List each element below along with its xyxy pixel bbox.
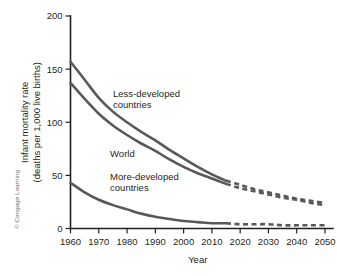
x-tick-label: 2040 bbox=[286, 236, 307, 247]
y-axis-title-line1: Infant mortality rate bbox=[19, 82, 30, 163]
x-axis-title: Year bbox=[188, 254, 207, 265]
chart-series bbox=[71, 62, 326, 226]
y-tick-label: 0 bbox=[57, 223, 62, 234]
copyright-credit: © Cengage Learning bbox=[13, 164, 20, 236]
chart-annotations: Less-developedcountriesWorldMore-develop… bbox=[110, 88, 180, 193]
x-tick-label: 2050 bbox=[314, 236, 335, 247]
x-tick-label: 2000 bbox=[173, 236, 194, 247]
infant-mortality-line-chart: 0501001502001960197019801990200020102020… bbox=[0, 0, 337, 276]
x-tick-label: 1970 bbox=[88, 236, 109, 247]
x-tick-label: 2030 bbox=[258, 236, 279, 247]
series-line-projection bbox=[226, 223, 325, 225]
series-label: World bbox=[110, 148, 135, 159]
chart-figure: 0501001502001960197019801990200020102020… bbox=[0, 0, 337, 276]
x-tick-label: 1990 bbox=[145, 236, 166, 247]
x-tick-label: 2020 bbox=[230, 236, 251, 247]
y-axis-title-line2: (deaths per 1,000 live births) bbox=[31, 62, 42, 182]
y-tick-label: 150 bbox=[47, 64, 63, 75]
y-tick-label: 50 bbox=[52, 170, 63, 181]
series-label-line2: countries bbox=[113, 99, 152, 110]
x-tick-label: 2010 bbox=[201, 236, 222, 247]
series-line-projection bbox=[226, 181, 325, 203]
series-label-line2: countries bbox=[110, 182, 149, 193]
series-label: More-developed bbox=[110, 171, 179, 182]
x-tick-label: 1960 bbox=[60, 236, 81, 247]
series-line-solid bbox=[71, 62, 227, 181]
y-tick-label: 200 bbox=[47, 10, 63, 21]
series-label: Less-developed bbox=[113, 88, 180, 99]
y-tick-label: 100 bbox=[47, 117, 63, 128]
x-tick-label: 1980 bbox=[116, 236, 137, 247]
